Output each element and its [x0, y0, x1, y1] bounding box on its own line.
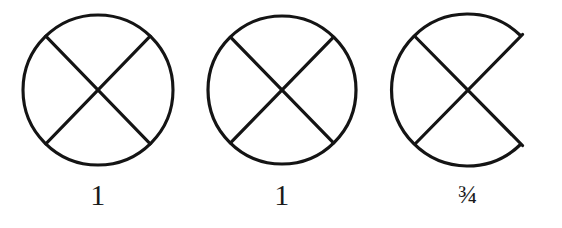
- figure-circle-1: 1: [4, 0, 192, 228]
- circle-drawing-1: [4, 4, 192, 176]
- circle-drawing-2: [188, 4, 376, 176]
- figure-circle-3: ¾: [374, 0, 562, 228]
- figure-circle-2: 1: [188, 0, 376, 228]
- figure-caption-2: 1: [188, 176, 376, 214]
- figure-panel: 1 1 ¾: [0, 0, 562, 228]
- figure-caption-3: ¾: [374, 176, 562, 214]
- circle-open-arc-icon: [392, 14, 521, 166]
- circle-drawing-3: [374, 4, 562, 176]
- figure-caption-1: 1: [4, 176, 192, 214]
